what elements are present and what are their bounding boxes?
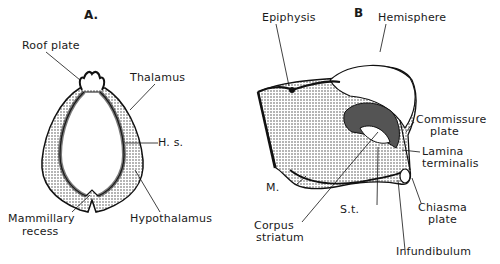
panel-a-title: A. [84, 8, 98, 22]
diagram-canvas: A. Roof plate Thalamus H. s. Mammillary … [0, 0, 500, 264]
label-striatum: striatum [256, 232, 304, 244]
label-roof-plate: Roof plate [22, 40, 80, 52]
label-chiasma-plate: plate [428, 214, 457, 226]
label-thalamus: Thalamus [130, 72, 185, 84]
label-st: S.t. [340, 204, 359, 216]
label-recess: recess [22, 226, 59, 238]
label-mammillary: Mammillary [8, 213, 75, 225]
label-m: M. [266, 182, 279, 194]
label-commissure-plate: plate [430, 126, 459, 138]
panel-b-section [258, 24, 421, 250]
label-hs: H. s. [158, 137, 183, 149]
label-hypothalamus: Hypothalamus [130, 213, 212, 225]
label-infundibulum: Infundibulum [396, 246, 471, 258]
label-epiphysis: Epiphysis [262, 12, 316, 24]
label-terminalis: terminalis [422, 158, 479, 170]
label-hemisphere: Hemisphere [378, 12, 446, 24]
panel-b-title: B [354, 6, 363, 20]
